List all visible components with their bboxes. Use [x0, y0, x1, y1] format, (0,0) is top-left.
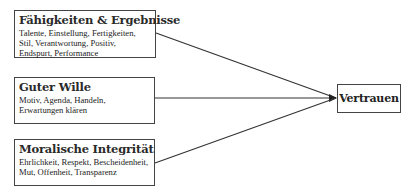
source-title: Fähigkeiten & Ergebnisse — [19, 14, 151, 27]
source-box-faehigkeiten: Fähigkeiten & Ergebnisse Talente, Einste… — [14, 10, 156, 58]
arrow-line-1 — [156, 33, 336, 98]
source-title: Guter Wille — [19, 81, 150, 94]
source-box-moralische-integritaet: Moralische Integrität Ehrlichkeit, Respe… — [14, 139, 155, 186]
source-description: Talente, Einstellung, Fertigkeiten, Stil… — [19, 28, 151, 58]
source-title: Moralische Integrität — [19, 143, 150, 156]
target-title: Vertrauen — [339, 92, 399, 105]
source-description: Ehrlichkeit, Respekt, Bescheidenheit, Mu… — [19, 157, 150, 177]
source-description: Motiv, Agenda, Handeln, Erwartungen klär… — [19, 95, 150, 115]
source-box-guter-wille: Guter Wille Motiv, Agenda, Handeln, Erwa… — [14, 77, 155, 124]
arrow-line-3 — [155, 98, 336, 163]
target-box-vertrauen: Vertrauen — [337, 84, 401, 113]
